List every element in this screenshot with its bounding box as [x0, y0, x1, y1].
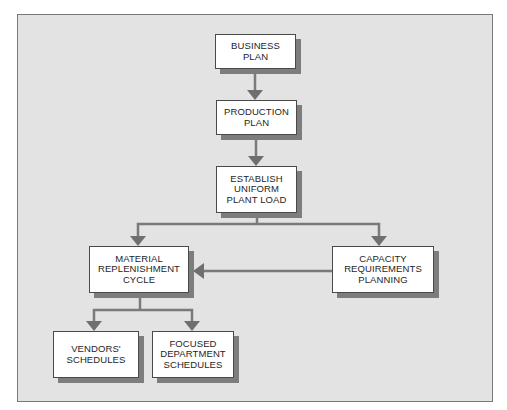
- arrow-head-icon: [193, 263, 204, 279]
- node-production-plan: PRODUCTION PLAN: [216, 100, 297, 135]
- arrow-head-icon: [86, 321, 102, 331]
- node-focused-department-schedules: FOCUSED DEPARTMENT SCHEDULES: [152, 331, 234, 378]
- node-establish-uniform-plant-load: ESTABLISH UNIFORM PLANT LOAD: [216, 166, 297, 213]
- node-capacity-requirements-planning: CAPACITY REQUIREMENTS PLANNING: [332, 246, 434, 293]
- arrow-head-icon: [371, 236, 387, 246]
- arrow-head-icon: [184, 321, 200, 331]
- node-material-replenishment-cycle: MATERIAL REPLENISHMENT CYCLE: [89, 246, 189, 293]
- arrow-head-icon: [248, 156, 264, 166]
- arrow-head-icon: [130, 236, 146, 246]
- arrow-head-icon: [247, 90, 263, 100]
- node-business-plan: BUSINESS PLAN: [215, 34, 296, 69]
- node-vendors-schedules: VENDORS' SCHEDULES: [53, 331, 139, 378]
